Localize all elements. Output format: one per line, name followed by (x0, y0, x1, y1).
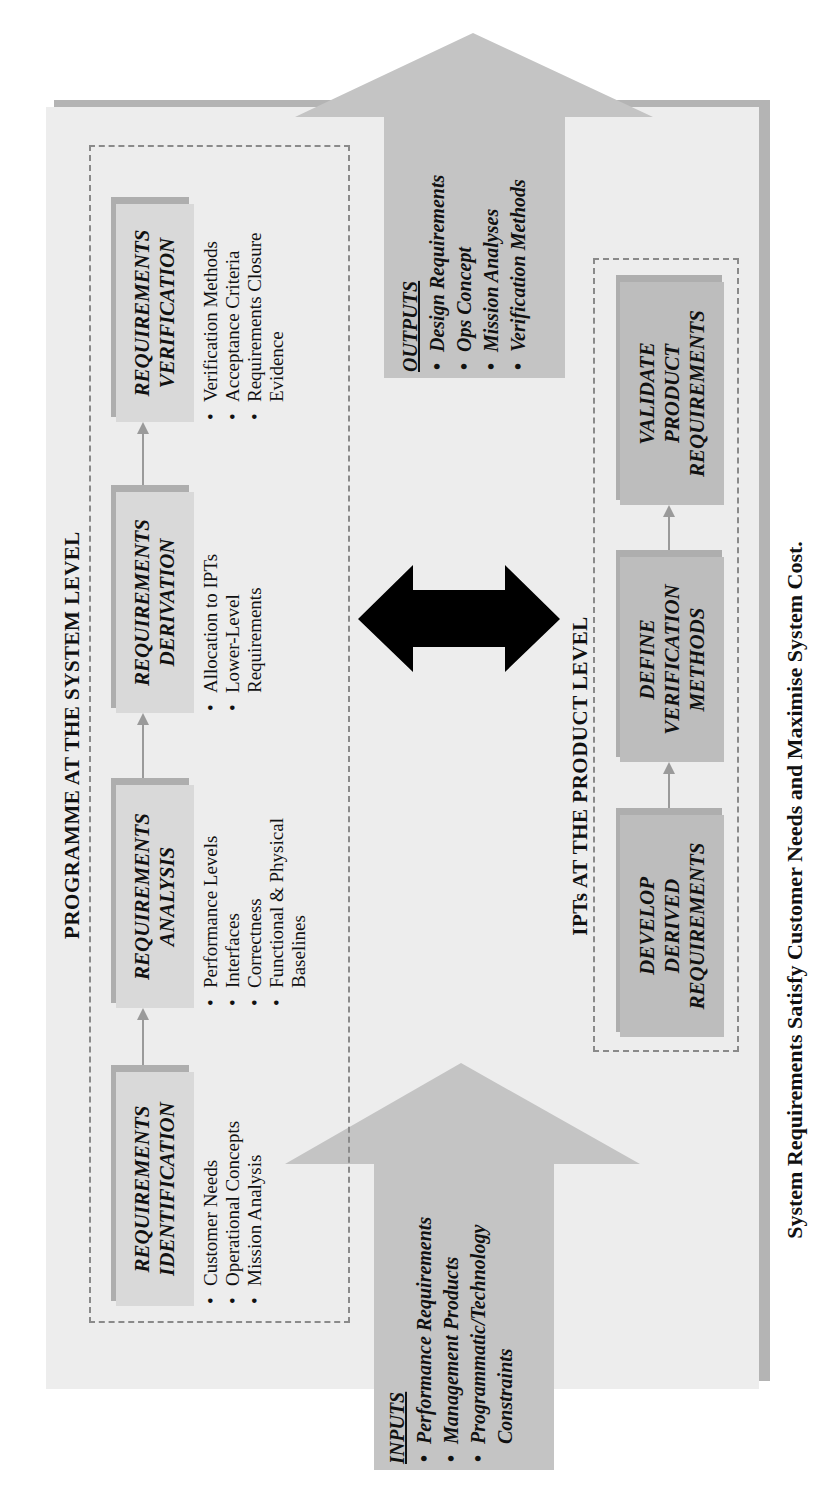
step-title-line: DERIVED (660, 879, 685, 974)
product-level-title: IPTs AT THE PRODUCT LEVEL (568, 610, 593, 941)
derivation-bullets: Allocation to IPTs Lower-Level Requireme… (200, 483, 266, 713)
step-title-line: REQUIREMENTS (685, 843, 710, 1010)
step-title-line: VALIDATE (635, 342, 660, 444)
input-item: Management Products (438, 1164, 465, 1464)
bullet-item: Acceptance Criteria (222, 182, 244, 422)
step-title-line: DEFINE (635, 619, 660, 700)
inputs-heading: INPUTS (384, 1164, 411, 1464)
step-title-line: DEVELOP (635, 877, 660, 975)
output-item: Verification Methods (505, 112, 532, 372)
bullet-item: Performance Levels (200, 748, 222, 1008)
inputs-block: INPUTS Performance Requirements Manageme… (384, 1164, 519, 1464)
analysis-bullets: Performance Levels Interfaces Correctnes… (200, 748, 310, 1008)
figure-caption: System Requirements Satisfy Customer Nee… (782, 541, 808, 1239)
outputs-block: OUTPUTS Design Requirements Ops Concept … (397, 112, 532, 372)
bullet-item: Functional & Physical Baselines (266, 788, 310, 1008)
step-title-line: REQUIREMENTS (685, 310, 710, 477)
output-item: Mission Analyses (478, 112, 505, 372)
requirements-process-diagram: PROGRAMME AT THE SYSTEM LEVEL REQUIREMEN… (0, 0, 813, 1506)
bullet-item: Allocation to IPTs (200, 483, 222, 713)
step-title-line: VERIFICATION (660, 584, 685, 735)
verification-bullets: Verification Methods Acceptance Criteria… (200, 182, 288, 422)
bullet-item: Requirements Closure Evidence (244, 172, 288, 422)
input-item: Programmatic/Technology Constraints (465, 1194, 519, 1464)
bullet-item: Customer Needs (200, 1036, 222, 1306)
double-arrow-icon (358, 565, 560, 672)
output-item: Design Requirements (424, 112, 451, 372)
outputs-heading: OUTPUTS (397, 112, 424, 372)
step-develop-derived-requirements: DEVELOP DERIVED REQUIREMENTS (620, 815, 724, 1037)
step-define-verification-methods: DEFINE VERIFICATION METHODS (620, 557, 724, 762)
bullet-item: Interfaces (222, 748, 244, 1008)
bullet-item: Lower-Level Requirements (222, 553, 266, 713)
bullet-item: Verification Methods (200, 182, 222, 422)
step-title-line: METHODS (685, 608, 710, 712)
bullet-item: Mission Analysis (244, 1036, 266, 1306)
identification-bullets: Customer Needs Operational Concepts Miss… (200, 1036, 266, 1306)
output-item: Ops Concept (451, 112, 478, 372)
input-item: Performance Requirements (411, 1164, 438, 1464)
connector-arrow-icon (137, 422, 149, 1065)
step-validate-product-requirements: VALIDATE PRODUCT REQUIREMENTS (620, 282, 724, 505)
bullet-item: Operational Concepts (222, 1036, 244, 1306)
step-title-line: PRODUCT (660, 344, 685, 443)
bullet-item: Correctness (244, 748, 266, 1008)
